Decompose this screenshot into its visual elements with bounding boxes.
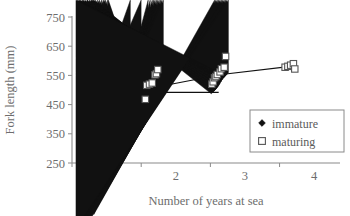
y-tick-label: 250 (46, 157, 65, 171)
data-point-maturing (292, 66, 298, 72)
chart-container: 2503504505506507501234 Number of years a… (0, 0, 350, 216)
y-tick-label: 750 (46, 11, 65, 25)
y-tick-label: 350 (46, 127, 65, 141)
x-tick-label: 4 (311, 169, 318, 183)
x-tick-label: 2 (173, 169, 179, 183)
legend-label-maturing[interactable]: maturing (272, 135, 315, 149)
y-axis-title: Fork length (mm) (3, 46, 17, 135)
scatter-plot-svg: 2503504505506507501234 Number of years a… (0, 0, 350, 216)
data-point-maturing (155, 66, 161, 72)
data-point-maturing (221, 64, 227, 70)
data-points-layer (76, 0, 298, 216)
x-axis-title: Number of years at sea (148, 194, 264, 208)
legend-marker-maturing (259, 138, 266, 145)
legend-label-immature[interactable]: immature (272, 117, 318, 131)
data-point-maturing (149, 80, 155, 86)
data-point-maturing (222, 53, 228, 59)
data-point-maturing (142, 96, 148, 102)
y-tick-label: 550 (46, 69, 65, 83)
y-tick-label: 650 (46, 40, 65, 54)
x-tick-label: 3 (242, 169, 248, 183)
y-tick-label: 450 (46, 98, 65, 112)
legend[interactable]: immaturematuring (250, 110, 344, 152)
